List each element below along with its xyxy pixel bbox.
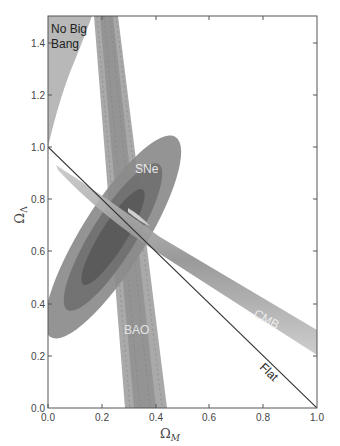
no-big-bang-label: No Big: [51, 22, 87, 36]
x-tick-label: 0.8: [256, 412, 270, 423]
bao-label: BAO: [124, 323, 149, 337]
x-tick-label: 1.0: [310, 412, 324, 423]
y-axis-label: ΩΛ: [12, 206, 29, 224]
no-big-bang-label: Bang: [51, 37, 79, 51]
x-tick-label: 0.4: [149, 412, 163, 423]
y-tick-label: 1.2: [31, 90, 45, 101]
x-tick-label: 0.2: [95, 412, 109, 423]
cosmology-constraint-chart: 0.0 0.2 0.4 0.6 0.8 1.0 ΩM 0.0 0.2 0.4 0…: [0, 0, 340, 446]
x-axis-label: ΩM: [160, 426, 181, 443]
y-tick-label: 0.2: [31, 351, 45, 362]
flat-label: Flat: [257, 360, 282, 384]
y-tick-label: 0.4: [31, 299, 45, 310]
y-tick-label: 1.4: [31, 38, 45, 49]
sne-label: SNe: [135, 162, 159, 176]
y-tick-label: 0.0: [31, 403, 45, 414]
y-tick-label: 0.6: [31, 246, 45, 257]
plot-area: [23, 16, 317, 408]
y-tick-label: 1.0: [31, 142, 45, 153]
x-tick-label: 0.6: [202, 412, 216, 423]
y-tick-label: 0.8: [31, 194, 45, 205]
plot-frame: [48, 16, 317, 408]
